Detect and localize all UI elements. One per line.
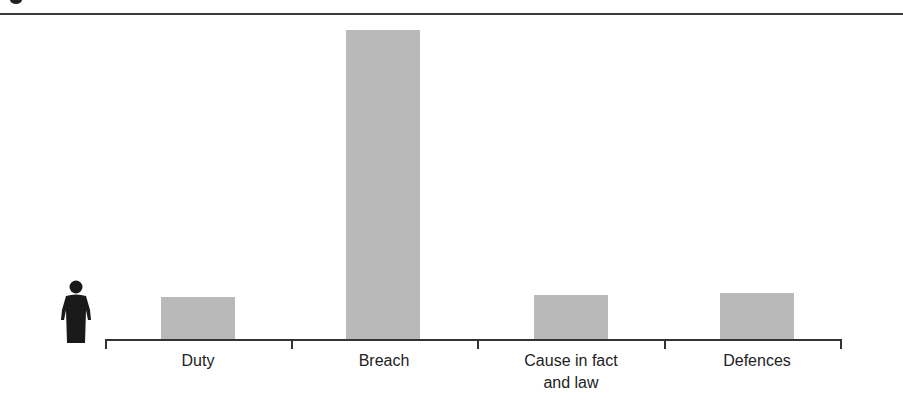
x-axis-tick [840,339,842,349]
person-icon [58,280,94,344]
top-fragment-mark [10,0,22,4]
x-axis-tick [477,339,479,349]
category-label-defences: Defences [664,350,850,372]
category-label-cause-line1: Cause in fact [478,350,664,372]
top-divider-rule [0,13,903,15]
bar-cause [534,295,608,339]
x-axis-line [105,339,841,341]
category-label-duty: Duty [105,350,291,372]
bar-duty [161,297,235,339]
x-axis-tick [664,339,666,349]
bar-breach [346,30,420,339]
x-axis-tick [105,339,107,349]
x-axis-tick [291,339,293,349]
category-label-cause-line2: and law [478,372,664,394]
bar-defences [720,293,794,339]
category-label-breach: Breach [291,350,477,372]
